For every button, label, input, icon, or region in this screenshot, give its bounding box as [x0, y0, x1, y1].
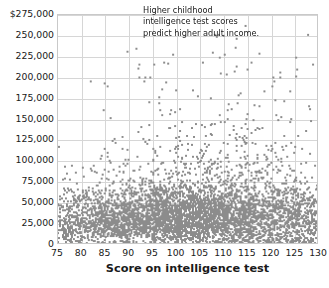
y-tick-label: 125,000 [0, 133, 54, 144]
scatter-plot-figure: 025,00050,00075,000100,000125,000150,000… [0, 0, 329, 288]
scatter-points [58, 15, 317, 243]
plot-area [57, 14, 318, 244]
y-tick-label: 150,000 [0, 113, 54, 124]
y-tick-label: 225,000 [0, 50, 54, 61]
y-tick-label: 100,000 [0, 154, 54, 165]
y-tick-label: 50,000 [0, 196, 54, 207]
chart-annotation: Higher childhood intelligence test score… [143, 5, 261, 39]
x-tick-label: 130 [298, 247, 329, 258]
y-tick-label: 25,000 [0, 217, 54, 228]
y-tick-label: 250,000 [0, 29, 54, 40]
y-tick-label: 175,000 [0, 92, 54, 103]
y-tick-label: 75,000 [0, 175, 54, 186]
y-tick-label: $275,000 [0, 8, 54, 19]
x-axis-title: Score on intelligence test [57, 262, 318, 275]
y-tick-label: 200,000 [0, 71, 54, 82]
